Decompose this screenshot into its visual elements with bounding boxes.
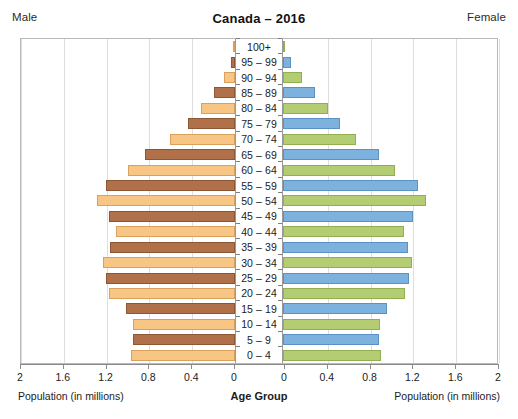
axis-tick-label: 2 bbox=[495, 371, 501, 383]
axis-tick-label: 2 bbox=[17, 371, 23, 383]
x-axis: 21.61.20.80.4000.40.81.21.62 bbox=[20, 364, 498, 365]
female-bar-cell bbox=[283, 132, 497, 147]
age-group-text: 90 – 94 bbox=[241, 72, 277, 84]
age-group-text: 55 – 59 bbox=[241, 180, 277, 192]
axis-tick bbox=[191, 364, 192, 369]
female-bar-cell bbox=[283, 255, 497, 270]
axis-tick-label: 0 bbox=[281, 371, 287, 383]
female-bar-cell bbox=[283, 85, 497, 100]
male-bar bbox=[106, 273, 235, 284]
age-group-row: 65 – 69 bbox=[21, 147, 497, 162]
male-bar-cell bbox=[21, 85, 235, 100]
bar-rows: 100+95 – 9990 – 9485 – 8980 – 8475 – 797… bbox=[21, 39, 497, 363]
age-group-row: 0 – 4 bbox=[21, 347, 497, 362]
male-bar bbox=[131, 350, 235, 361]
axis-tick-label: 0.8 bbox=[362, 371, 377, 383]
age-group-row: 100+ bbox=[21, 39, 497, 54]
female-bar bbox=[283, 165, 395, 176]
male-bar bbox=[145, 149, 235, 160]
male-bar bbox=[214, 87, 235, 98]
age-group-label: 85 – 89 bbox=[235, 85, 283, 100]
female-bar-cell bbox=[283, 317, 497, 332]
female-bar bbox=[283, 334, 379, 345]
axis-tick bbox=[498, 364, 499, 369]
age-group-label: 100+ bbox=[235, 39, 283, 54]
female-bar bbox=[283, 350, 381, 361]
age-group-label: 45 – 49 bbox=[235, 209, 283, 224]
female-bar bbox=[283, 288, 405, 299]
male-bar-cell bbox=[21, 147, 235, 162]
male-bar bbox=[126, 303, 235, 314]
age-group-label: 80 – 84 bbox=[235, 101, 283, 116]
male-bar-cell bbox=[21, 224, 235, 239]
male-bar-cell bbox=[21, 178, 235, 193]
female-bar-cell bbox=[283, 209, 497, 224]
age-group-text: 15 – 19 bbox=[241, 303, 277, 315]
female-bar-cell bbox=[283, 101, 497, 116]
age-group-text: 80 – 84 bbox=[241, 102, 277, 114]
male-bar-cell bbox=[21, 286, 235, 301]
female-bar-cell bbox=[283, 162, 497, 177]
male-bar-cell bbox=[21, 270, 235, 285]
age-group-text: 5 – 9 bbox=[247, 334, 271, 346]
female-bar-cell bbox=[283, 239, 497, 254]
age-group-label: 75 – 79 bbox=[235, 116, 283, 131]
axis-tick bbox=[20, 364, 21, 369]
axis-tick bbox=[106, 364, 107, 369]
female-bar-cell bbox=[283, 70, 497, 85]
female-bar bbox=[283, 57, 292, 68]
female-bar bbox=[283, 118, 340, 129]
female-bar bbox=[283, 87, 315, 98]
age-group-text: 30 – 34 bbox=[241, 257, 277, 269]
male-bar-cell bbox=[21, 132, 235, 147]
age-group-row: 40 – 44 bbox=[21, 224, 497, 239]
axis-tick bbox=[370, 364, 371, 369]
age-group-row: 15 – 19 bbox=[21, 301, 497, 316]
female-bar bbox=[283, 303, 387, 314]
age-group-text: 0 – 4 bbox=[247, 349, 271, 361]
female-bar bbox=[283, 319, 380, 330]
male-bar bbox=[103, 257, 235, 268]
female-bar bbox=[283, 226, 404, 237]
female-bar-cell bbox=[283, 116, 497, 131]
axis-tick bbox=[234, 364, 235, 369]
female-bar-cell bbox=[283, 270, 497, 285]
age-group-label: 30 – 34 bbox=[235, 255, 283, 270]
age-group-text: 65 – 69 bbox=[241, 149, 277, 161]
male-bar bbox=[188, 118, 235, 129]
female-bar-cell bbox=[283, 54, 497, 69]
female-bar-cell bbox=[283, 301, 497, 316]
age-group-row: 55 – 59 bbox=[21, 178, 497, 193]
age-group-label: 90 – 94 bbox=[235, 70, 283, 85]
female-bar-cell bbox=[283, 39, 497, 54]
age-group-row: 45 – 49 bbox=[21, 209, 497, 224]
age-group-label: 60 – 64 bbox=[235, 162, 283, 177]
female-bar bbox=[283, 257, 412, 268]
male-bar-cell bbox=[21, 39, 235, 54]
age-group-row: 60 – 64 bbox=[21, 162, 497, 177]
axis-tick-label: 0.4 bbox=[319, 371, 334, 383]
axis-tick bbox=[148, 364, 149, 369]
age-group-text: 20 – 24 bbox=[241, 287, 277, 299]
male-bar-cell bbox=[21, 347, 235, 362]
age-group-label: 15 – 19 bbox=[235, 301, 283, 316]
plot-area: 100+95 – 9990 – 9485 – 8980 – 8475 – 797… bbox=[20, 38, 498, 364]
male-bar-cell bbox=[21, 255, 235, 270]
age-group-text: 10 – 14 bbox=[241, 318, 277, 330]
male-bar-cell bbox=[21, 162, 235, 177]
gridline bbox=[499, 39, 500, 363]
age-group-text: 70 – 74 bbox=[241, 133, 277, 145]
age-group-row: 70 – 74 bbox=[21, 132, 497, 147]
age-group-row: 35 – 39 bbox=[21, 239, 497, 254]
age-group-text: 40 – 44 bbox=[241, 226, 277, 238]
female-bar bbox=[283, 134, 356, 145]
male-bar bbox=[110, 242, 235, 253]
male-bar-cell bbox=[21, 209, 235, 224]
axis-tick-label: 0.8 bbox=[141, 371, 156, 383]
axis-tick bbox=[412, 364, 413, 369]
age-group-row: 5 – 9 bbox=[21, 332, 497, 347]
female-bar-cell bbox=[283, 332, 497, 347]
female-bar-cell bbox=[283, 178, 497, 193]
age-group-label: 25 – 29 bbox=[235, 270, 283, 285]
male-bar-cell bbox=[21, 239, 235, 254]
